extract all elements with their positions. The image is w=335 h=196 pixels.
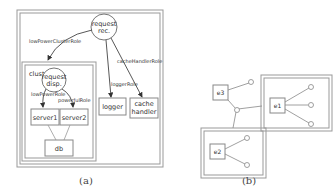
e1-port-edge-1 <box>285 88 309 102</box>
e1-port-edge-3 <box>285 109 309 123</box>
server2-label: server2 <box>62 114 87 122</box>
figure-canvas: clusterA request rec. request disp. lowP… <box>0 0 335 196</box>
e1-port-2-icon <box>309 103 314 108</box>
junction-e1-edge <box>238 106 262 109</box>
logger-label: logger <box>102 103 123 111</box>
e2-port-1-icon <box>245 136 250 141</box>
figure-b: e3 e1 e2 (b) <box>201 75 332 186</box>
request-disp-line2: disp. <box>46 80 62 88</box>
outer-container-box <box>17 10 163 167</box>
edge-label-low-power-cluster-role: lowPowerClusterRole <box>29 38 81 44</box>
e2-port-2-icon <box>245 163 250 168</box>
e3-junction-edge <box>228 100 236 109</box>
connector-junction-icon <box>235 108 240 113</box>
db-label: db <box>55 145 63 153</box>
e3-port-edge <box>228 83 249 90</box>
e2-port-edge-1 <box>225 139 245 149</box>
caption-a: (a) <box>79 175 93 186</box>
edge-label-cache-handler-role: cacheHandlerRole <box>117 58 162 64</box>
cache-handler-line2: handler <box>132 108 157 116</box>
e1-port-3-icon <box>309 122 314 127</box>
e2-port-edge-2 <box>225 154 245 164</box>
edge-server2-db <box>64 125 70 140</box>
outer-container-inner-box <box>20 13 160 164</box>
e3-label: e3 <box>217 89 225 96</box>
e2-label: e2 <box>214 148 222 155</box>
cache-handler-line1: cache <box>134 100 153 108</box>
edge-server1-db <box>48 125 56 140</box>
server1-label: server1 <box>33 114 58 122</box>
figure-a: clusterA request rec. request disp. lowP… <box>17 10 163 186</box>
edge-label-powerful-role: powerfulRole <box>58 97 91 104</box>
e1-port-1-icon <box>309 85 314 90</box>
request-rec-line2: rec. <box>98 27 110 35</box>
caption-b: (b) <box>242 175 256 186</box>
junction-e2-edge <box>233 112 236 128</box>
edge-logger-role <box>106 40 111 97</box>
edge-cache-handler-role <box>111 38 142 97</box>
e3-port-icon <box>249 80 254 85</box>
edge-low-power-cluster-role <box>48 30 92 60</box>
e1-label: e1 <box>274 102 282 109</box>
